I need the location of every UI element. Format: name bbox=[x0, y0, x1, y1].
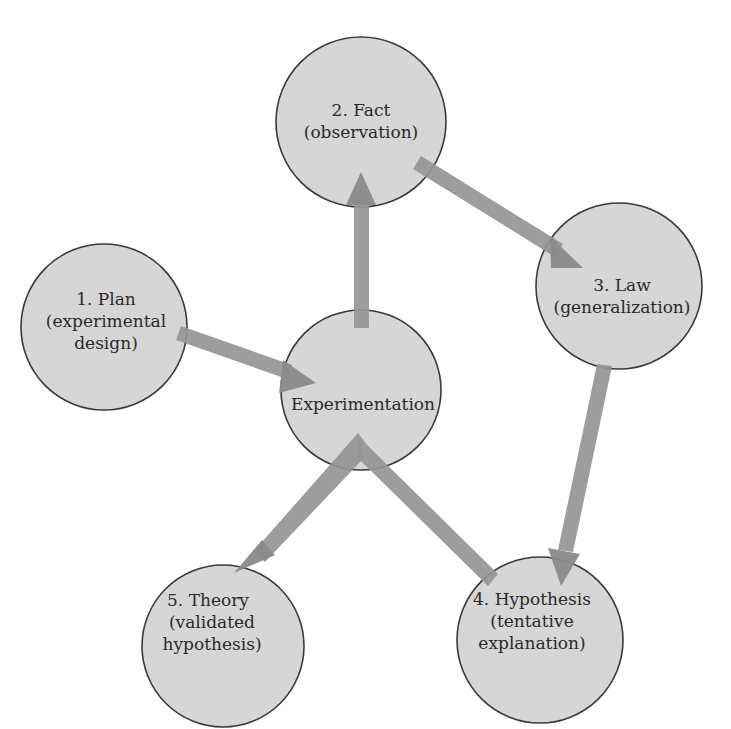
arrow-experimentation-to-fact bbox=[346, 172, 376, 328]
scientific-method-diagram: 2. Fact (observation) 1. Plan (experimen… bbox=[0, 0, 731, 729]
node-law-subtitle: (generalization) bbox=[554, 297, 691, 317]
node-law-title: 3. Law bbox=[593, 275, 651, 295]
node-experimentation: Experimentation bbox=[291, 394, 435, 414]
node-fact-subtitle: (observation) bbox=[304, 122, 418, 142]
node-experimentation-title: Experimentation bbox=[291, 394, 435, 414]
node-fact-title: 2. Fact bbox=[332, 100, 391, 120]
node-hypothesis-subtitle-2: explanation) bbox=[478, 633, 585, 653]
node-plan-subtitle-2: design) bbox=[74, 333, 138, 353]
node-theory-title: 5. Theory bbox=[167, 590, 249, 610]
node-theory-subtitle-2: hypothesis) bbox=[162, 634, 261, 654]
arrow-law-to-hypothesis bbox=[548, 364, 612, 586]
arrow-fact-to-law bbox=[413, 156, 583, 268]
node-hypothesis-title: 4. Hypothesis bbox=[473, 589, 591, 609]
arrow-experimentation-to-theory bbox=[234, 433, 364, 573]
node-plan-title: 1. Plan bbox=[76, 289, 136, 309]
node-hypothesis: 4. Hypothesis (tentative explanation) bbox=[473, 589, 591, 653]
node-hypothesis-subtitle: (tentative bbox=[490, 611, 573, 631]
node-theory: 5. Theory (validated hypothesis) bbox=[162, 590, 261, 654]
node-theory-subtitle: (validated bbox=[169, 612, 255, 632]
node-plan-subtitle: (experimental bbox=[46, 311, 166, 331]
